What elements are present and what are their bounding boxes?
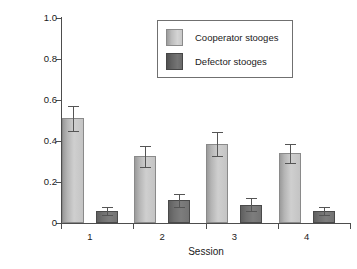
error-bar-cap-lower xyxy=(212,156,223,157)
error-bar-cap-lower xyxy=(140,167,151,168)
x-tick-label-session-4: 4 xyxy=(287,231,327,243)
x-tick-mark-3 xyxy=(278,223,279,229)
error-bar-cap-upper xyxy=(102,207,113,208)
x-tick-mark-1 xyxy=(133,223,134,229)
error-bar-line xyxy=(217,132,218,157)
error-bar-cap-lower xyxy=(285,163,296,164)
legend-label-cooperator: Cooperator stooges xyxy=(195,32,278,44)
x-tick-label-session-1: 1 xyxy=(70,231,110,243)
error-bar-line xyxy=(251,198,252,210)
error-bar-cap-upper xyxy=(212,132,223,133)
bar-chart-figure: Frequency of pulls Session 00.20.40.60.8… xyxy=(0,0,357,269)
y-tick-label: 1.0 xyxy=(44,12,57,23)
error-bar-cap-upper xyxy=(319,207,330,208)
error-bar-cap-lower xyxy=(319,215,330,216)
cooperator-swatch-icon xyxy=(166,29,183,46)
y-tick-label: 0.8 xyxy=(44,53,57,64)
legend-label-defector: Defector stooges xyxy=(195,56,267,68)
error-bar-cap-upper xyxy=(174,194,185,195)
bar-cooperator-session-4 xyxy=(279,153,301,223)
error-bar-cap-upper xyxy=(140,146,151,147)
y-tick-label: 0.2 xyxy=(44,176,57,187)
error-bar-line xyxy=(290,144,291,162)
error-bar-cap-lower xyxy=(68,131,79,132)
x-tick-mark-origin xyxy=(61,223,62,229)
legend-entry-cooperator: Cooperator stooges xyxy=(166,29,278,46)
legend-entry-defector: Defector stooges xyxy=(166,53,267,70)
x-tick-mark-4 xyxy=(350,223,351,229)
error-bar-cap-upper xyxy=(68,106,79,107)
error-bar-cap-lower xyxy=(246,211,257,212)
x-axis-title: Session xyxy=(61,246,351,257)
error-bar-line xyxy=(145,146,146,167)
error-bar-cap-upper xyxy=(246,198,257,199)
x-tick-label-session-3: 3 xyxy=(214,231,254,243)
bar-cooperator-session-1 xyxy=(62,118,84,223)
error-bar-cap-upper xyxy=(285,144,296,145)
y-tick-label: 0.4 xyxy=(44,135,57,146)
error-bar-cap-lower xyxy=(174,207,185,208)
x-tick-label-session-2: 2 xyxy=(142,231,182,243)
x-tick-mark-2 xyxy=(206,223,207,229)
error-bar-line xyxy=(73,106,74,131)
error-bar-cap-lower xyxy=(102,215,113,216)
error-bar-line xyxy=(107,207,108,215)
error-bar-line xyxy=(179,194,180,206)
chart-legend: Cooperator stooges Defector stooges xyxy=(157,20,293,78)
y-tick-label: 0.6 xyxy=(44,94,57,105)
error-bar-line xyxy=(324,207,325,215)
y-tick-label: 0 xyxy=(52,217,57,228)
defector-swatch-icon xyxy=(166,53,183,70)
